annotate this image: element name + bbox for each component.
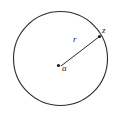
boundary-point-label: z: [102, 26, 106, 35]
radius-line: [61, 37, 100, 67]
center-point-marker: [57, 64, 60, 67]
boundary-point-marker: [98, 35, 101, 38]
circle-radius-figure: r z a: [0, 0, 118, 116]
radius-label: r: [73, 35, 77, 44]
center-label: a: [62, 64, 67, 73]
circle-outline: [14, 12, 108, 106]
figure-canvas: [0, 0, 118, 116]
